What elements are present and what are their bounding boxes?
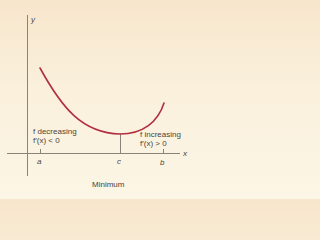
right-annotation: f increasing f′(x) > 0 (140, 130, 181, 148)
right-annotation-line2: f′(x) > 0 (140, 139, 181, 148)
point-a-label: a (37, 157, 41, 166)
left-annotation-line2: f′(x) < 0 (33, 136, 77, 145)
left-annotation-line1: f decreasing (33, 127, 77, 136)
minimum-diagram: y x a c b f decreasing f′(x) < 0 f incre… (0, 0, 198, 199)
x-axis-label: x (183, 149, 187, 158)
point-b-label: b (160, 158, 164, 167)
right-annotation-line1: f increasing (140, 130, 181, 139)
diagram-title: Minimum (92, 180, 124, 189)
plot-area (0, 0, 198, 199)
function-curve (40, 68, 164, 134)
left-annotation: f decreasing f′(x) < 0 (33, 127, 77, 145)
point-c-label: c (117, 157, 121, 166)
y-axis-label: y (31, 15, 35, 24)
